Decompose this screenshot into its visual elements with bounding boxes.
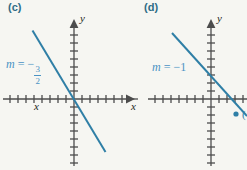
panel-c-x-axis-label: x bbox=[131, 100, 136, 112]
panel-d-point-label: ( bbox=[242, 108, 246, 121]
panel-d-tag: (d) bbox=[144, 1, 158, 13]
panel-d-slope-equals: = bbox=[164, 60, 171, 74]
panel-c-y-axis-label: y bbox=[80, 12, 85, 24]
panel-d-slope-numerator: 1 bbox=[180, 60, 186, 74]
panel-d-y-axis-label: y bbox=[217, 12, 222, 24]
panel-c-slope-label: m = − 3 2 bbox=[6, 57, 41, 86]
panel-c-slope-equals: = bbox=[18, 57, 25, 71]
panel-c-tag: (c) bbox=[8, 1, 21, 13]
panel-c-slope-sign: − bbox=[27, 57, 34, 71]
panel-c-slope-variable: m bbox=[6, 57, 15, 71]
panel-d-point-marker bbox=[233, 111, 238, 116]
panel-d-slope-variable: m bbox=[152, 60, 161, 74]
panel-d-slope-label: m = −1 bbox=[152, 60, 186, 75]
panel-c-slope-numerator: 3 bbox=[34, 65, 41, 74]
panel-d-x-axis-label: x bbox=[34, 100, 39, 112]
panel-c-slope-denominator: 2 bbox=[34, 77, 41, 86]
panel-c-slope-fraction: 3 2 bbox=[34, 65, 41, 86]
